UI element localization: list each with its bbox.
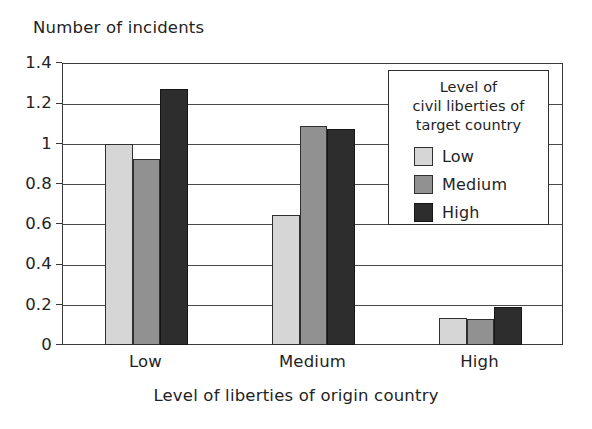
legend-item-medium: Medium (414, 170, 548, 198)
bar-high-medium (467, 319, 495, 345)
bar-medium-medium (300, 126, 328, 345)
legend-items: LowMediumHigh (389, 142, 548, 226)
legend-swatch-medium (414, 175, 433, 194)
legend-title: Level of civil liberties of target count… (389, 78, 548, 135)
bar-high-high (494, 307, 522, 345)
legend-title-line-2: civil liberties of (389, 97, 548, 116)
bar-chart-figure: Number of incidents 00.20.40.60.811.21.4… (0, 0, 592, 429)
x-tick-label: Medium (229, 352, 396, 371)
y-tick-label: 0 (0, 335, 52, 354)
y-tick-label: 1.4 (0, 53, 52, 72)
legend-swatch-high (414, 203, 433, 222)
legend: Level of civil liberties of target count… (388, 70, 549, 225)
bar-medium-low (272, 215, 300, 345)
bar-high-low (439, 318, 467, 345)
y-tick-label: 0.2 (0, 295, 52, 314)
y-axis-title: Number of incidents (33, 18, 204, 37)
y-tick-label: 1.2 (0, 93, 52, 112)
x-tick-label: High (396, 352, 563, 371)
legend-title-line-1: Level of (389, 78, 548, 97)
legend-label: High (442, 203, 480, 222)
y-tick-label: 1 (0, 134, 52, 153)
bar-low-low (105, 144, 133, 345)
x-tick-label: Low (62, 352, 229, 371)
bar-low-medium (133, 159, 161, 345)
legend-item-high: High (414, 198, 548, 226)
y-tick-label: 0.6 (0, 214, 52, 233)
legend-swatch-low (414, 147, 433, 166)
legend-title-line-3: target country (389, 116, 548, 135)
x-axis-title: Level of liberties of origin country (0, 386, 592, 405)
bar-low-high (160, 89, 188, 345)
legend-label: Low (442, 147, 474, 166)
bar-medium-high (327, 129, 355, 345)
y-tick-label: 0.8 (0, 174, 52, 193)
y-tick-label: 0.4 (0, 254, 52, 273)
legend-label: Medium (442, 175, 507, 194)
legend-item-low: Low (414, 142, 548, 170)
